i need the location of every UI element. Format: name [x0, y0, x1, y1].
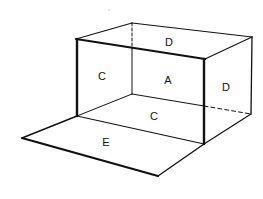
flap-front-edge — [22, 138, 158, 176]
label-front-flap: E — [102, 136, 109, 148]
top-left-edge — [76, 23, 132, 39]
label-floor: C — [150, 110, 158, 122]
floor-front-edge — [77, 116, 204, 144]
scan-speck — [108, 9, 110, 11]
top-back-edge — [132, 23, 252, 37]
label-left-side: C — [98, 70, 106, 82]
open-box-diagram: D C A D C E — [0, 0, 263, 199]
hidden-floor-edge — [204, 106, 251, 114]
diagram-canvas: D C A D C E — [0, 0, 263, 199]
flap-left-edge — [22, 116, 77, 138]
label-back-wall: A — [164, 74, 172, 86]
floor-right-edge — [204, 114, 251, 144]
top-front-edge — [76, 39, 205, 59]
back-right-vertical-edge — [251, 37, 252, 114]
floor-back-edge — [132, 94, 204, 106]
top-right-edge — [205, 37, 252, 59]
flap-right-edge — [158, 144, 204, 176]
label-right-side: D — [222, 81, 230, 93]
label-top-face: D — [165, 36, 173, 48]
floor-left-edge — [77, 94, 132, 116]
